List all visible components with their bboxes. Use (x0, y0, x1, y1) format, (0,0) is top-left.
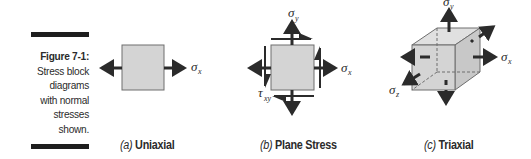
svg-text:σ: σ (501, 49, 508, 64)
svg-text:x: x (507, 57, 512, 66)
svg-text:σ: σ (389, 82, 396, 97)
svg-text:x: x (347, 68, 352, 77)
svg-text:xy: xy (263, 94, 272, 103)
svg-text:z: z (395, 90, 400, 99)
svg-text:x: x (197, 67, 202, 76)
panel-title: Uniaxial (135, 138, 174, 152)
svg-text:σ: σ (191, 59, 198, 74)
panel-tag: (a) (120, 138, 132, 152)
panel-tag: (c) (424, 138, 436, 152)
uniaxial-diagram: σ x (102, 45, 202, 90)
panel-label-triaxial: (c)Triaxial (424, 138, 474, 152)
triaxial-diagram: σ y σ x σ z (389, 0, 512, 103)
svg-text:σ: σ (341, 60, 348, 75)
svg-text:σ: σ (288, 5, 295, 20)
svg-text:y: y (294, 14, 299, 23)
svg-text:y: y (449, 2, 454, 11)
svg-text:σ: σ (443, 0, 450, 9)
panel-label-plane-stress: (b)Plane Stress (260, 138, 337, 152)
stress-diagrams: σ x σ y σ x τ xy (0, 0, 531, 159)
panel-label-uniaxial: (a)Uniaxial (120, 138, 174, 152)
panel-tag: (b) (260, 138, 272, 152)
panel-title: Plane Stress (275, 138, 337, 152)
panel-title: Triaxial (438, 138, 473, 152)
plane-stress-diagram: σ y σ x τ xy (250, 5, 352, 113)
